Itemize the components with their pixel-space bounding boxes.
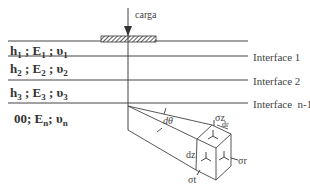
layer-2-sep-2: ; xyxy=(46,61,57,76)
angle-label: dθ xyxy=(163,116,173,126)
interface-1-label: Interface 1 xyxy=(253,52,300,63)
layer-1-sep-1: ; xyxy=(22,43,33,58)
load-label: carga xyxy=(135,10,156,20)
layer-2-sep-1: ; xyxy=(22,61,33,76)
layer-n-sep-1: ; xyxy=(27,111,35,126)
layer-3-label: h3 ; E3 ; υ3 xyxy=(10,86,68,102)
interface-2-label: Interface 2 xyxy=(253,76,300,87)
layer-3-sep-1: ; xyxy=(22,85,33,100)
sigma-r-label: σr xyxy=(238,156,247,166)
sigma-t-label: σt xyxy=(188,175,196,185)
layer-1-sep-2: ; xyxy=(46,43,57,58)
stress-arrows xyxy=(197,120,238,175)
layer-3-E: E xyxy=(33,85,42,100)
layer-n-label: 00; En; υn xyxy=(14,112,68,128)
interface-n-1-label: Interface n-1 xyxy=(253,99,310,110)
layer-3-nu-sub: 3 xyxy=(63,92,68,102)
dz-label: dz xyxy=(186,150,195,160)
layer-1-E: E xyxy=(33,43,42,58)
layer-1-nu-sub: 1 xyxy=(63,50,68,60)
layer-2-E: E xyxy=(33,61,42,76)
layer-n-sep-2: ; xyxy=(48,111,56,126)
layer-n-E: E xyxy=(35,111,44,126)
layer-n-nu-sub: n xyxy=(63,118,68,128)
stress-element-cube xyxy=(196,125,231,180)
layer-3-sep-2: ; xyxy=(46,85,57,100)
layer-n-h: 00 xyxy=(14,111,27,126)
load-arrow-icon xyxy=(124,26,132,36)
layer-n-nu: υ xyxy=(56,111,63,126)
layer-2-label: h2 ; E2 ; υ2 xyxy=(10,62,68,78)
angle-tick-2 xyxy=(157,128,162,132)
sigma-z-label: σz xyxy=(215,113,225,123)
angle-tick-1 xyxy=(164,108,166,114)
layer-1-label: h1 ; E1 ; υ1 xyxy=(10,44,68,60)
layer-2-nu-sub: 2 xyxy=(63,68,68,78)
